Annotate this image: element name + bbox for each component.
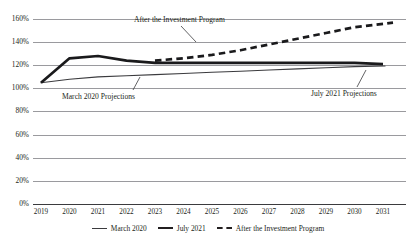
y-tick-label: 120% <box>0 61 29 69</box>
y-tick-label: 160% <box>0 15 29 23</box>
gridline-80 <box>33 111 406 112</box>
gridline-40 <box>33 158 406 159</box>
plot-area <box>33 14 406 206</box>
y-tick-label: 80% <box>0 107 29 115</box>
chart-container: 160% 140% 120% 100% 80% 60% 40% 20% 0% A… <box>0 0 416 238</box>
legend-swatch-line-icon <box>92 228 107 229</box>
legend-item-march-2020[interactable]: March 2020 <box>92 224 147 233</box>
y-tick-label: 40% <box>0 154 29 162</box>
legend-item-july-2021[interactable]: July 2021 <box>158 224 206 233</box>
legend-label: After the Investment Program <box>236 224 324 233</box>
gridline-140 <box>33 42 406 43</box>
legend-swatch-dashed-line-icon <box>217 227 232 229</box>
annotation-july-2021-projections: July 2021 Projections <box>311 89 377 98</box>
gridline-20 <box>33 181 406 182</box>
y-tick-label: 140% <box>0 38 29 46</box>
legend-label: March 2020 <box>111 224 147 233</box>
x-axis-labels: 2019 2020 2021 2022 2023 2024 2025 2026 … <box>0 208 416 220</box>
legend-label: July 2021 <box>177 224 206 233</box>
y-tick-label: 60% <box>0 131 29 139</box>
clipped-chart-title <box>0 0 416 2</box>
x-axis-line <box>33 204 406 205</box>
legend-swatch-line-icon <box>158 227 173 229</box>
y-tick-label: 100% <box>0 84 29 92</box>
y-tick-label: 0% <box>0 200 29 208</box>
gridline-60 <box>33 135 406 136</box>
chart-legend: March 2020 July 2021 After the Investmen… <box>0 221 416 235</box>
legend-item-after-investment-program[interactable]: After the Investment Program <box>217 224 324 233</box>
gridline-120 <box>33 65 406 66</box>
x-tick-label: 2031 <box>366 208 400 217</box>
annotation-after-investment-program: After the Investment Program <box>134 15 225 24</box>
annotation-march-2020-projections: March 2020 Projections <box>62 92 135 101</box>
y-tick-label: 20% <box>0 177 29 185</box>
